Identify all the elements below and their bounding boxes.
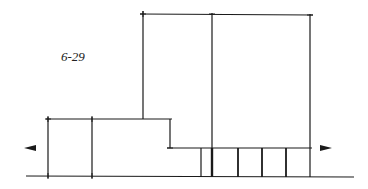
elevation-diagram <box>0 0 368 189</box>
tall-block-top <box>140 14 313 15</box>
ground-line <box>26 176 354 177</box>
tick-marks <box>45 11 313 179</box>
diagram-lines <box>26 11 354 178</box>
arrow-right-icon <box>320 145 332 151</box>
arrow-left-icon <box>24 145 36 151</box>
